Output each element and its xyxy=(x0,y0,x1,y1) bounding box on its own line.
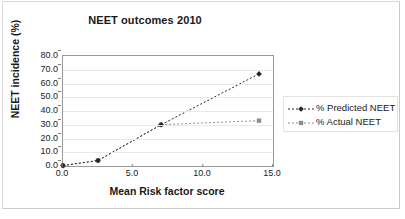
legend-item-label: % Predicted NEET xyxy=(315,102,395,113)
x-axis-tick-label: 5.0 xyxy=(126,168,139,178)
x-axis-tick-mark xyxy=(272,164,273,167)
y-axis-tick-mark xyxy=(58,91,61,92)
x-axis-tick-label: 15.0 xyxy=(263,168,281,178)
gridline xyxy=(63,70,273,71)
series-diamond xyxy=(60,71,262,168)
y-axis-tick-mark xyxy=(58,105,61,106)
x-axis-tick-labels: 0.05.010.015.0 xyxy=(0,168,405,182)
square-marker-icon xyxy=(287,115,315,127)
gridline xyxy=(63,97,273,98)
legend-item[interactable]: % Predicted NEET xyxy=(287,100,395,114)
y-axis-tick-mark xyxy=(58,146,61,147)
chart-title: NEET outcomes 2010 xyxy=(0,14,290,26)
y-axis-tick-mark xyxy=(58,50,61,51)
legend-item[interactable]: % Actual NEET xyxy=(287,114,395,128)
x-axis-tick-mark xyxy=(202,164,203,167)
diamond-marker-icon xyxy=(287,101,315,113)
gridline xyxy=(63,84,273,85)
data-point-marker xyxy=(256,71,262,77)
y-axis-tick-mark xyxy=(58,133,61,134)
y-axis-tick-label: 50.0 xyxy=(40,91,58,101)
x-axis-tick-label: 10.0 xyxy=(193,168,211,178)
y-axis-tick-mark xyxy=(58,119,61,120)
legend-item-label: % Actual NEET xyxy=(315,116,381,127)
gridline xyxy=(63,111,273,112)
y-axis-tick-label: 60.0 xyxy=(40,78,58,88)
x-axis-tick-mark xyxy=(132,164,133,167)
x-axis-tick-label: 0.0 xyxy=(56,168,69,178)
y-axis-tick-labels: 0.010.020.030.040.050.060.070.080.0 xyxy=(28,50,60,170)
data-point-marker xyxy=(257,118,261,122)
y-axis-tick-mark xyxy=(58,78,61,79)
gridline xyxy=(63,139,273,140)
y-axis-tick-mark xyxy=(58,160,61,161)
y-axis-tick-label: 80.0 xyxy=(40,50,58,60)
plot-area xyxy=(62,55,274,167)
y-axis-tick-label: 40.0 xyxy=(40,105,58,115)
gridline xyxy=(63,152,273,153)
gridline xyxy=(63,125,273,126)
chart-figure: NEET outcomes 2010 NEET incidence (%) 0.… xyxy=(0,0,405,219)
x-axis-title: Mean Risk factor score xyxy=(62,185,272,197)
y-axis-tick-label: 10.0 xyxy=(40,146,58,156)
chart-legend: % Predicted NEET% Actual NEET xyxy=(283,96,398,132)
y-axis-title: NEET incidence (%) xyxy=(9,9,21,129)
y-axis-tick-label: 20.0 xyxy=(40,133,58,143)
y-axis-tick-label: 70.0 xyxy=(40,64,58,74)
x-axis-tick-mark xyxy=(62,164,63,167)
y-axis-tick-label: 30.0 xyxy=(40,119,58,129)
y-axis-tick-mark xyxy=(58,64,61,65)
